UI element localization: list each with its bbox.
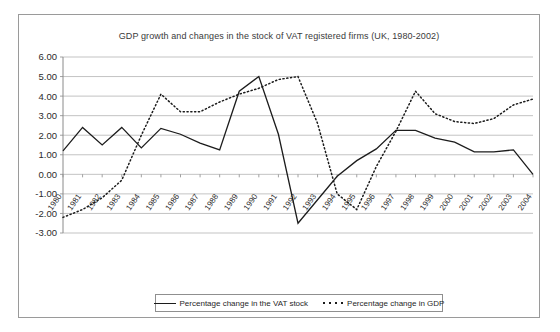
x-tick-label: 1986 (164, 192, 182, 212)
y-tick-label: 0.00 (39, 169, 58, 180)
x-tick-label: 2002 (477, 192, 495, 212)
x-tick-label: 1981 (66, 192, 84, 212)
x-tick-label: 1999 (418, 192, 436, 212)
legend-entry-gdp: Percentage change in GDP (321, 299, 444, 308)
x-tick-label: 2000 (438, 192, 456, 212)
x-tick-label: 1991 (261, 192, 279, 212)
x-tick-label: 1985 (144, 192, 162, 212)
x-tick-marks-group (63, 174, 533, 177)
legend-label-gdp: Percentage change in GDP (347, 299, 444, 308)
y-tick-label: -3.00 (35, 227, 57, 238)
x-tick-label: 1988 (203, 192, 221, 212)
y-tick-label: 1.00 (39, 149, 58, 160)
legend-label-vat-stock: Percentage change in the VAT stock (180, 299, 309, 308)
y-tick-label: 6.00 (39, 51, 58, 62)
x-tick-label: 1984 (124, 192, 142, 212)
x-tick-label: 1998 (399, 192, 417, 212)
x-tick-label: 1995 (340, 192, 358, 212)
x-tick-label: 1997 (379, 192, 397, 212)
y-tick-label: 4.00 (39, 91, 58, 102)
chart-frame: GDP growth and changes in the stock of V… (18, 14, 540, 318)
chart-legend: Percentage change in the VAT stock Perce… (155, 294, 443, 312)
x-tick-label: 1994 (320, 192, 338, 212)
y-tick-label: 2.00 (39, 130, 58, 141)
x-tick-label: 1983 (105, 192, 123, 212)
y-tick-label: 5.00 (39, 71, 58, 82)
x-tick-label: 1990 (242, 192, 260, 212)
legend-swatch-solid-icon (154, 303, 176, 304)
x-tick-label: 1996 (359, 192, 377, 212)
x-tick-label: 2004 (516, 192, 534, 212)
x-tick-label: 1989 (222, 192, 240, 212)
x-tick-label: 1992 (281, 192, 299, 212)
chart-plot-area: 6.005.004.003.002.001.000.00-1.00-2.00-3… (19, 15, 541, 319)
legend-entry-vat-stock: Percentage change in the VAT stock (154, 299, 309, 308)
y-tick-label: 3.00 (39, 110, 58, 121)
legend-swatch-dotted-icon (321, 302, 343, 304)
x-tick-label: 2001 (457, 192, 475, 212)
x-tick-label: 2003 (496, 192, 514, 212)
x-tick-labels-group: 1980198119821983198419851986198719881989… (46, 192, 534, 212)
x-tick-label: 1987 (183, 192, 201, 212)
chart-figure: GDP growth and changes in the stock of V… (0, 0, 560, 332)
